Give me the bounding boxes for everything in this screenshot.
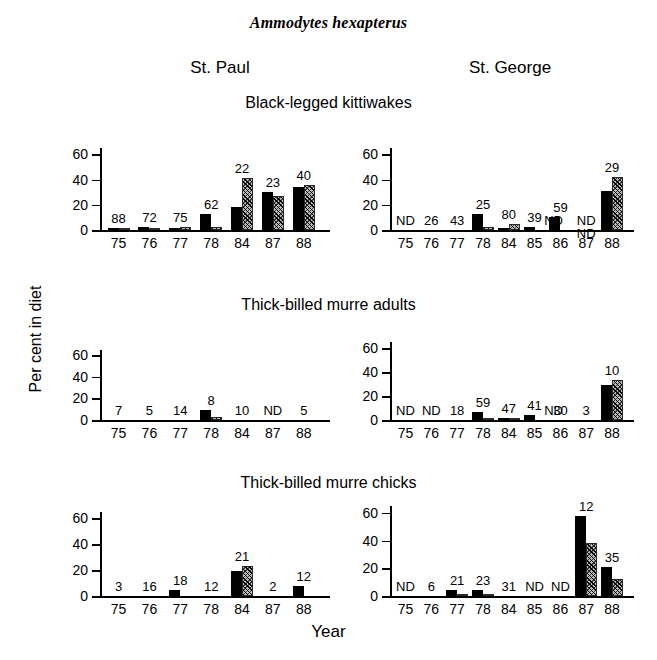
bar-value-label: 12 — [284, 570, 324, 583]
x-axis-tick-label: 84 — [225, 602, 259, 616]
y-axis-tick-label: 40 — [342, 534, 378, 548]
bar-solid — [601, 191, 612, 230]
no-data-label: ND — [537, 404, 571, 417]
y-axis-tick — [382, 230, 390, 232]
bar-hatched — [211, 417, 222, 420]
x-axis-tick-label: 76 — [132, 236, 166, 250]
x-axis-title: Year — [0, 622, 657, 642]
x-axis-tick-label: 77 — [163, 236, 197, 250]
bar-solid — [108, 228, 119, 230]
y-axis-tick-label: 40 — [342, 173, 378, 187]
bar-hatched — [242, 178, 253, 230]
y-axis-tick-label: 40 — [52, 537, 88, 551]
bar-solid — [524, 415, 535, 420]
bar-solid — [472, 412, 483, 420]
x-axis-tick-label: 78 — [194, 602, 228, 616]
x-axis-tick-label: 76 — [132, 602, 166, 616]
x-axis-tick-label: 87 — [256, 602, 290, 616]
x-axis-tick-label: 88 — [287, 236, 321, 250]
bar-solid — [601, 385, 612, 420]
bar-solid — [231, 571, 242, 596]
bar-value-label: 5 — [284, 404, 324, 417]
bar-hatched — [304, 185, 315, 230]
bar-hatched — [211, 227, 222, 230]
y-axis-tick-label: 40 — [52, 370, 88, 384]
bar-solid — [446, 590, 457, 596]
x-axis-tick-label: 88 — [595, 602, 629, 616]
y-axis-tick — [382, 513, 390, 515]
y-axis-tick — [92, 420, 100, 422]
y-axis-tick-label: 0 — [52, 413, 88, 427]
x-axis-tick-label: 77 — [163, 426, 197, 440]
bar-solid — [472, 590, 483, 596]
y-axis-tick — [92, 398, 100, 400]
y-axis-tick-label: 20 — [52, 563, 88, 577]
y-axis-tick — [92, 377, 100, 379]
bar-hatched — [509, 418, 520, 420]
column-header-st-paul: St. Paul — [110, 58, 330, 78]
bar-hatched — [483, 227, 494, 230]
x-axis-line — [100, 596, 330, 598]
bar-group — [293, 148, 317, 230]
bar-group — [601, 342, 625, 420]
bar-hatched — [119, 228, 130, 230]
bar-solid — [472, 214, 483, 230]
x-axis-tick-label: 87 — [256, 236, 290, 250]
bar-solid — [575, 516, 586, 596]
y-axis-tick-label: 60 — [52, 147, 88, 161]
y-axis-tick — [382, 596, 390, 598]
bar-value-label: 62 — [191, 198, 231, 211]
bar-group — [200, 350, 224, 420]
y-axis-tick-label: 0 — [52, 589, 88, 603]
y-axis-tick — [92, 180, 100, 182]
x-axis-tick-label: 75 — [102, 602, 136, 616]
y-axis-tick-label: 0 — [52, 223, 88, 237]
y-axis-tick — [382, 154, 390, 156]
y-axis-tick-label: 0 — [342, 223, 378, 237]
bar-solid — [231, 207, 242, 230]
bar-value-label: 29 — [592, 161, 632, 174]
y-axis-tick-label: 20 — [342, 389, 378, 403]
y-axis-tick — [382, 205, 390, 207]
y-axis-tick — [92, 230, 100, 232]
bar-solid — [138, 227, 149, 230]
bar-solid — [200, 410, 211, 420]
y-axis-tick — [382, 372, 390, 374]
bar-hatched — [149, 228, 160, 230]
x-axis-tick-label: 88 — [287, 602, 321, 616]
y-axis-tick — [92, 518, 100, 520]
y-axis-tick-label: 0 — [342, 589, 378, 603]
y-axis-tick-label: 60 — [342, 506, 378, 520]
y-axis-tick-label: 60 — [342, 147, 378, 161]
bar-solid — [498, 418, 509, 420]
y-axis-tick — [92, 570, 100, 572]
bar-hatched — [273, 196, 284, 230]
bar-group — [200, 148, 224, 230]
bar-solid — [498, 228, 509, 230]
y-axis-tick — [382, 568, 390, 570]
bar-solid — [601, 567, 612, 596]
y-axis-tick — [382, 396, 390, 398]
chart-panel: 020406075ND76267743782584808539865987ND … — [352, 148, 634, 230]
y-axis-tick-label: 20 — [342, 561, 378, 575]
y-axis-tick-label: 60 — [52, 348, 88, 362]
y-axis-tick — [92, 205, 100, 207]
y-axis-tick — [382, 180, 390, 182]
bar-hatched — [457, 594, 468, 596]
bar-hatched — [612, 177, 623, 230]
bar-hatched — [509, 224, 520, 230]
x-axis-line — [390, 596, 634, 598]
bar-solid — [293, 187, 304, 230]
bar-value-label: 22 — [222, 162, 262, 175]
panel-row-title-kittiwakes: Black-legged kittiwakes — [0, 94, 657, 112]
x-axis-line — [100, 230, 330, 232]
x-axis-tick-label: 88 — [595, 426, 629, 440]
bar-value-label: 75 — [160, 211, 200, 224]
y-axis-tick — [382, 420, 390, 422]
y-axis-title: Per cent in diet — [27, 259, 45, 419]
x-axis-tick-label: 88 — [595, 236, 629, 250]
x-axis-tick-label: 78 — [194, 236, 228, 250]
y-axis-tick — [92, 154, 100, 156]
y-axis-tick-label: 20 — [52, 198, 88, 212]
bar-hatched — [612, 579, 623, 596]
